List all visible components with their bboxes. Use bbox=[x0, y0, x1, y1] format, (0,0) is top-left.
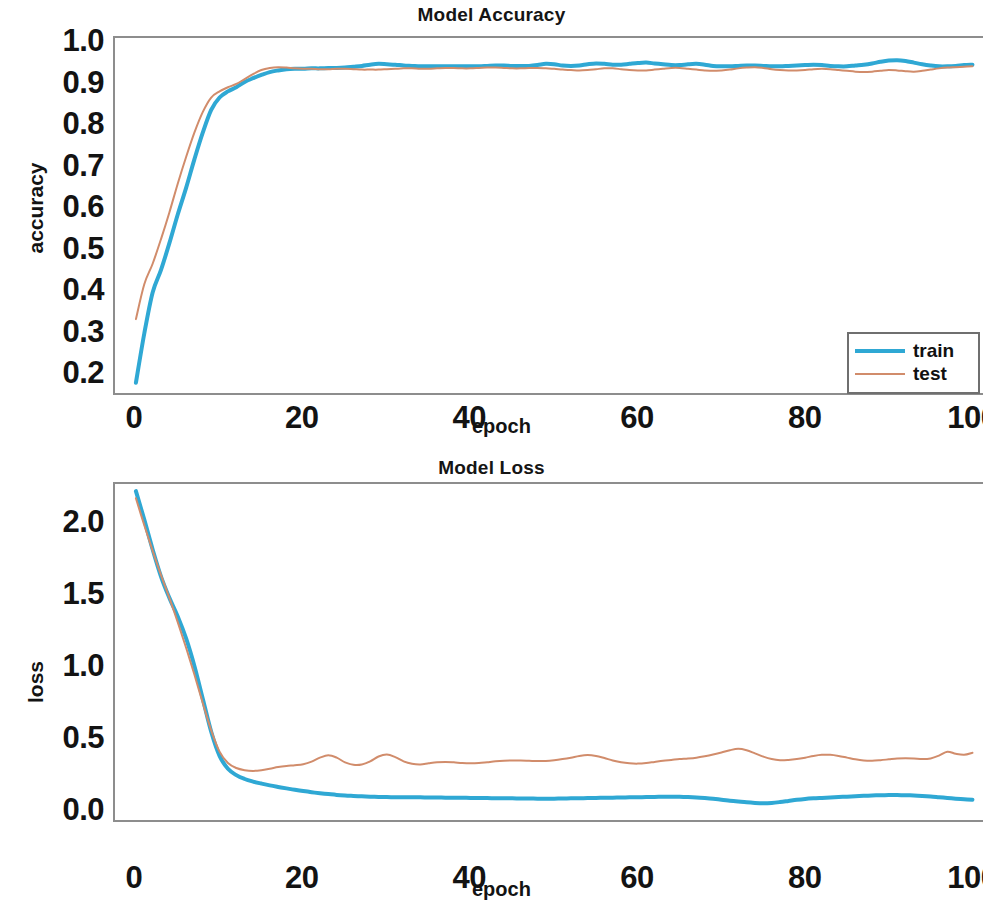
x-tick-label: 0 bbox=[126, 860, 143, 896]
loss-x-axis-label: epoch bbox=[472, 878, 531, 901]
panel-model-loss: Model Loss 0.00.51.01.52.0 loss train te… bbox=[0, 455, 983, 910]
panel-model-accuracy: Model Accuracy 0.20.30.40.50.60.70.80.91… bbox=[0, 0, 983, 455]
y-tick-label: 0.9 bbox=[62, 65, 104, 101]
y-tick-label: 0.0 bbox=[62, 792, 104, 828]
x-tick-label: 0 bbox=[126, 400, 143, 436]
accuracy-y-axis-label: accuracy bbox=[24, 148, 48, 268]
figure-training-curves: Model Accuracy 0.20.30.40.50.60.70.80.91… bbox=[0, 0, 983, 910]
y-tick-label: 0.6 bbox=[62, 189, 104, 225]
test-line-swatch-icon bbox=[855, 373, 905, 375]
loss-chart-title: Model Loss bbox=[0, 457, 983, 479]
y-tick-label: 0.2 bbox=[62, 355, 104, 391]
accuracy-legend-label-test: test bbox=[913, 364, 947, 383]
x-tick-label: 60 bbox=[620, 860, 653, 896]
accuracy-legend-label-train: train bbox=[913, 341, 954, 360]
y-tick-label: 0.8 bbox=[62, 106, 104, 142]
loss-y-axis-label: loss bbox=[24, 622, 48, 742]
x-tick-label: 60 bbox=[620, 400, 653, 436]
y-tick-label: 1.0 bbox=[62, 23, 104, 59]
y-tick-label: 0.4 bbox=[62, 272, 104, 308]
loss-plot-area bbox=[113, 482, 983, 822]
y-tick-label: 1.0 bbox=[62, 648, 104, 684]
y-tick-label: 2.0 bbox=[62, 504, 104, 540]
accuracy-y-axis-ticks: 0.20.30.40.50.60.70.80.91.0 bbox=[0, 0, 104, 455]
x-tick-label: 80 bbox=[788, 400, 821, 436]
loss-series-canvas bbox=[115, 484, 983, 820]
series-line-test bbox=[136, 498, 973, 771]
x-tick-label: 100 bbox=[947, 860, 983, 896]
y-tick-label: 0.7 bbox=[62, 148, 104, 184]
series-line-test bbox=[136, 66, 973, 319]
accuracy-chart-title: Model Accuracy bbox=[0, 4, 983, 26]
x-tick-label: 20 bbox=[285, 400, 318, 436]
y-tick-label: 1.5 bbox=[62, 576, 104, 612]
x-tick-label: 20 bbox=[285, 860, 318, 896]
train-line-swatch-icon bbox=[855, 349, 905, 353]
x-tick-label: 80 bbox=[788, 860, 821, 896]
y-tick-label: 0.3 bbox=[62, 314, 104, 350]
accuracy-legend-item-test: test bbox=[855, 362, 971, 385]
y-tick-label: 0.5 bbox=[62, 720, 104, 756]
accuracy-legend: train test bbox=[847, 332, 980, 394]
accuracy-legend-item-train: train bbox=[855, 339, 971, 362]
series-line-train bbox=[136, 491, 973, 803]
loss-y-axis-ticks: 0.00.51.01.52.0 bbox=[0, 455, 104, 910]
x-tick-label: 100 bbox=[947, 400, 983, 436]
accuracy-x-axis-label: epoch bbox=[472, 415, 531, 438]
y-tick-label: 0.5 bbox=[62, 231, 104, 267]
